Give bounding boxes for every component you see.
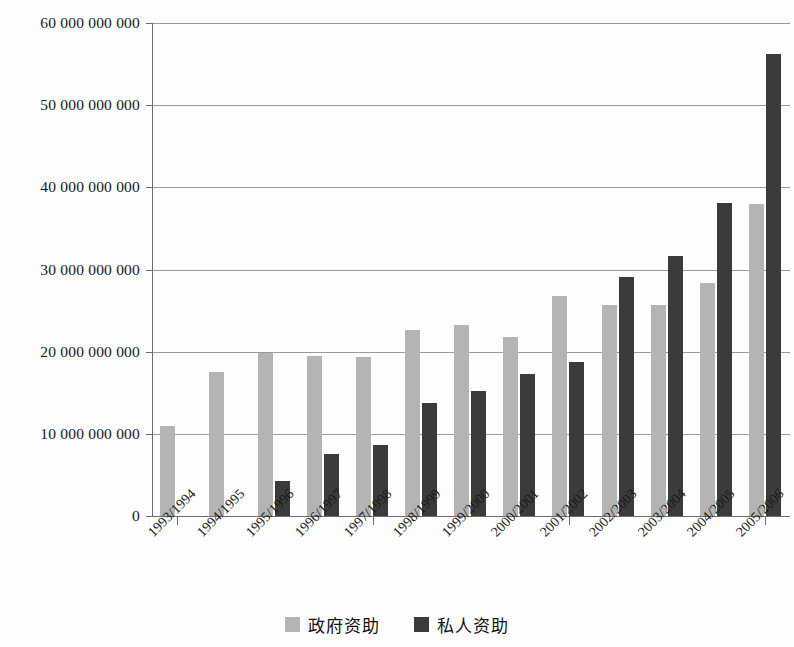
legend-swatch-government-icon bbox=[285, 617, 300, 632]
legend-item[interactable]: 政府资助 bbox=[285, 612, 380, 637]
bar-government bbox=[454, 325, 469, 516]
bar-government bbox=[209, 372, 224, 516]
bar-government bbox=[356, 357, 371, 516]
bar-government bbox=[503, 337, 518, 516]
bar-government bbox=[552, 296, 567, 516]
chart-legend: 政府资助私人资助 bbox=[0, 612, 794, 637]
bar-government bbox=[258, 353, 273, 517]
y-axis-tick-label: 40 000 000 000 bbox=[0, 179, 140, 194]
legend-label: 私人资助 bbox=[437, 612, 509, 637]
bar-government bbox=[602, 305, 617, 516]
y-axis-tick-label: 0 bbox=[0, 508, 140, 523]
bar-private bbox=[668, 256, 683, 516]
y-axis-tick-label: 50 000 000 000 bbox=[0, 97, 140, 112]
bars-layer bbox=[152, 23, 790, 516]
legend-swatch-private-icon bbox=[414, 617, 429, 632]
y-axis-tick-label: 60 000 000 000 bbox=[0, 15, 140, 30]
legend-item[interactable]: 私人资助 bbox=[414, 612, 509, 637]
y-axis-tick-label: 10 000 000 000 bbox=[0, 426, 140, 441]
bar-private bbox=[717, 203, 732, 516]
bar-government bbox=[651, 305, 666, 516]
bar-private bbox=[619, 277, 634, 516]
bar-government bbox=[405, 330, 420, 516]
bar-government bbox=[700, 283, 715, 516]
bar-government bbox=[749, 204, 764, 516]
y-axis-tick-label: 30 000 000 000 bbox=[0, 262, 140, 277]
bar-chart: 010 000 000 00020 000 000 00030 000 000 … bbox=[0, 0, 794, 647]
bar-private bbox=[766, 54, 781, 516]
y-axis-tick-label: 20 000 000 000 bbox=[0, 344, 140, 359]
legend-label: 政府资助 bbox=[308, 612, 380, 637]
bar-government bbox=[307, 356, 322, 516]
